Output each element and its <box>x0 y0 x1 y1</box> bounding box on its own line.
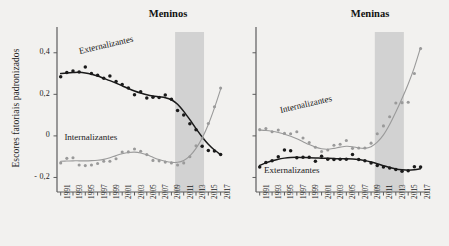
data-point <box>394 102 397 105</box>
data-point <box>314 159 318 163</box>
data-point <box>151 159 154 162</box>
data-point <box>351 153 355 157</box>
x-tick-label-meninas-4: 1999 <box>312 184 320 199</box>
data-point <box>145 96 149 100</box>
x-tick-label-meninas-11: 2013 <box>399 184 407 199</box>
data-point <box>382 165 386 169</box>
chart-svg <box>0 0 449 246</box>
data-point <box>59 161 62 164</box>
x-tick-label-meninos-1: 1993 <box>76 184 84 199</box>
data-point <box>182 161 185 164</box>
data-point <box>114 80 118 84</box>
data-point <box>289 132 292 135</box>
data-point <box>176 163 179 166</box>
data-point <box>213 149 217 153</box>
data-point <box>59 75 63 79</box>
data-point <box>345 157 349 161</box>
data-point <box>320 155 324 159</box>
data-point <box>271 130 274 133</box>
x-tick-label-meninas-7: 2005 <box>349 184 357 199</box>
data-point <box>388 115 391 118</box>
data-point <box>108 74 112 78</box>
data-point <box>376 132 379 135</box>
x-tick-label-meninas-6: 2003 <box>337 184 345 199</box>
data-point <box>78 163 81 166</box>
data-point <box>308 141 311 144</box>
data-point <box>419 165 423 169</box>
data-point <box>338 157 342 161</box>
data-point <box>363 159 367 163</box>
data-point <box>188 122 192 126</box>
data-point <box>363 146 366 149</box>
data-point <box>370 142 373 145</box>
data-point <box>201 136 204 139</box>
data-point <box>151 95 155 99</box>
data-point <box>176 109 180 113</box>
data-point <box>264 127 267 130</box>
x-tick-label-meninos-12: 2015 <box>211 184 219 199</box>
x-tick-label-meninos-7: 2005 <box>150 184 158 199</box>
data-point <box>158 159 161 162</box>
data-point <box>219 153 223 157</box>
data-point <box>77 70 81 74</box>
x-tick-label-meninas-0: 1991 <box>263 184 271 199</box>
data-point <box>127 86 131 90</box>
data-point <box>332 144 335 147</box>
data-point <box>320 150 323 153</box>
data-point <box>394 168 398 172</box>
data-point <box>170 161 173 164</box>
y-tick-label-2: 0 <box>12 130 50 139</box>
data-point <box>207 122 210 125</box>
x-tick-label-meninos-11: 2013 <box>199 184 207 199</box>
data-point <box>65 157 68 160</box>
y-tick-label-3: - 0,2 <box>12 172 50 181</box>
data-point <box>277 129 280 132</box>
data-point <box>407 101 410 104</box>
data-point <box>108 160 111 163</box>
data-point <box>307 156 311 160</box>
data-point <box>84 164 87 167</box>
x-tick-label-meninas-5: 2001 <box>325 184 333 199</box>
data-point <box>351 147 354 150</box>
data-point <box>121 151 124 154</box>
data-point <box>120 83 124 87</box>
shaded-period-band <box>175 32 204 192</box>
data-point <box>289 149 293 153</box>
data-point <box>413 72 416 75</box>
data-point <box>213 105 216 108</box>
data-point <box>102 77 106 81</box>
data-point <box>133 147 136 150</box>
data-point <box>102 160 105 163</box>
data-point <box>345 139 348 142</box>
data-point <box>96 162 99 165</box>
data-point <box>314 146 317 149</box>
data-point <box>182 113 186 117</box>
x-tick-label-meninas-8: 2007 <box>362 184 370 199</box>
data-point <box>157 96 161 100</box>
data-point <box>283 132 286 135</box>
data-point <box>139 150 142 153</box>
data-point <box>145 153 148 156</box>
data-point <box>90 72 94 76</box>
data-point <box>127 150 130 153</box>
x-tick-label-meninas-3: 1997 <box>300 184 308 199</box>
data-point <box>301 136 304 139</box>
data-point <box>339 143 342 146</box>
data-point <box>194 128 198 132</box>
data-point <box>71 69 75 73</box>
x-tick-label-meninas-13: 2017 <box>424 184 432 199</box>
data-point <box>406 169 410 173</box>
data-point <box>164 161 167 164</box>
data-point <box>270 159 274 163</box>
data-point <box>258 128 261 131</box>
data-point <box>84 65 88 69</box>
data-point <box>400 169 404 173</box>
x-tick-label-meninas-9: 2009 <box>374 184 382 199</box>
data-point <box>326 148 329 151</box>
data-point <box>369 161 373 165</box>
data-point <box>65 71 69 75</box>
data-point <box>357 158 361 162</box>
data-point <box>357 146 360 149</box>
data-point <box>301 156 305 160</box>
data-point <box>332 158 336 162</box>
